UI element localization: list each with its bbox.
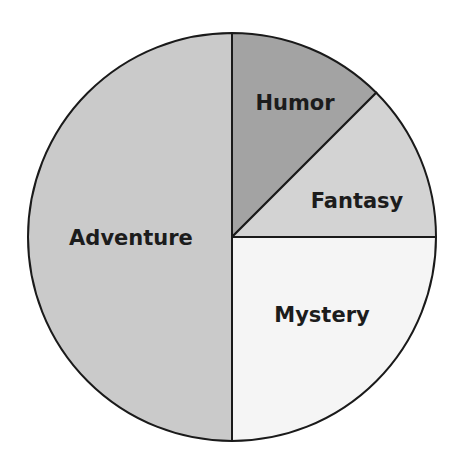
pie-chart: Humor Fantasy Mystery Adventure [0, 0, 456, 474]
slice-label-mystery: Mystery [274, 303, 370, 327]
slice-label-fantasy: Fantasy [311, 189, 404, 213]
pie-slice-mystery [232, 237, 436, 441]
slice-label-adventure: Adventure [69, 226, 193, 250]
slice-label-humor: Humor [255, 91, 335, 115]
